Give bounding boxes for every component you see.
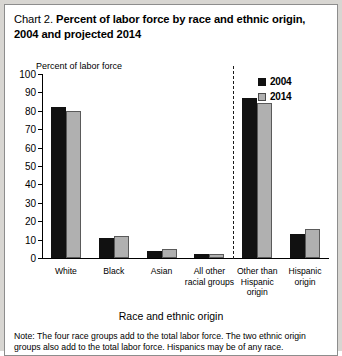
x-category-label: White: [39, 266, 93, 277]
bar-2014-asian: [162, 249, 177, 258]
bar-2004-all-other-racial-groups: [194, 254, 209, 258]
x-axis-line: [42, 258, 329, 259]
bar-2014-other-than-hispanic-origin: [257, 103, 272, 258]
y-tick-label: 10: [12, 234, 36, 245]
bar-2014-all-other-racial-groups: [209, 254, 224, 258]
plot-area: 0102030405060708090100 WhiteBlackAsianAl…: [42, 74, 329, 259]
y-tick: [38, 166, 42, 167]
y-tick-label: 70: [12, 124, 36, 135]
plot-frame: 0102030405060708090100 WhiteBlackAsianAl…: [42, 74, 329, 259]
bar-2004-asian: [147, 251, 162, 258]
y-tick: [38, 92, 42, 93]
x-axis-title: Race and ethnic origin: [5, 310, 337, 322]
x-category-label: Hispanic origin: [278, 266, 332, 287]
bar-2014-white: [66, 111, 81, 258]
y-tick-label: 30: [12, 197, 36, 208]
y-tick: [38, 74, 42, 75]
x-category-label: All other racial groups: [182, 266, 236, 287]
y-tick: [38, 111, 42, 112]
bar-2004-hispanic-origin: [290, 234, 305, 258]
bar-2004-white: [51, 107, 66, 258]
y-axis-line: [42, 74, 43, 259]
y-tick: [38, 221, 42, 222]
y-tick: [38, 240, 42, 241]
bar-2014-black: [114, 236, 129, 258]
y-tick-label: 80: [12, 105, 36, 116]
chart-number: Chart 2.: [14, 13, 53, 25]
x-category-label: Black: [87, 266, 141, 277]
y-tick-label: 50: [12, 161, 36, 172]
y-tick-label: 20: [12, 216, 36, 227]
y-tick-label: 100: [12, 69, 36, 80]
group-divider-line: [233, 66, 234, 259]
y-tick: [38, 129, 42, 130]
y-tick: [38, 184, 42, 185]
bar-2014-hispanic-origin: [305, 229, 320, 258]
x-category-label: Asian: [135, 266, 189, 277]
y-tick: [38, 148, 42, 149]
bar-2004-black: [99, 238, 114, 258]
x-category-label: Other than Hispanic origin: [230, 266, 284, 298]
chart-figure: Chart 2. Percent of labor force by race …: [4, 4, 338, 356]
chart-title: Chart 2. Percent of labor force by race …: [14, 12, 330, 41]
y-tick: [38, 203, 42, 204]
y-tick-label: 0: [12, 253, 36, 264]
y-tick-label: 40: [12, 179, 36, 190]
y-tick-label: 90: [12, 87, 36, 98]
y-axis-caption: Percent of labor force: [36, 61, 122, 71]
chart-note: Note: The four race groups add to the to…: [14, 331, 334, 353]
y-tick-label: 60: [12, 142, 36, 153]
bar-2004-other-than-hispanic-origin: [242, 98, 257, 258]
y-tick: [38, 258, 42, 259]
chart-title-text: Percent of labor force by race and ethni…: [14, 13, 305, 40]
